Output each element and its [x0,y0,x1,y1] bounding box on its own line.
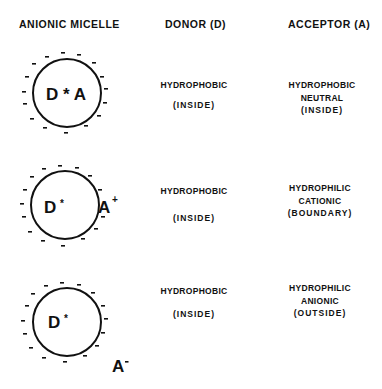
micelle-2: D * A + [20,165,118,247]
donor-property: HYDROPHOBIC [160,285,227,298]
row1-acceptor: HYDROPHOBIC NEUTRAL (INSIDE) [288,79,355,117]
donor-label: D [44,198,56,217]
acceptor-property: HYDROPHILIC [289,282,351,295]
row3-acceptor: HYDROPHILIC ANIONIC (OUTSIDE) [289,282,351,320]
donor-property: HYDROPHOBIC [160,185,227,198]
acceptor-label: A [112,357,124,376]
donor-location: (INSIDE) [160,99,227,112]
row3-donor: HYDROPHOBIC (INSIDE) [160,285,227,320]
excited-star: * [64,313,68,324]
acceptor-charge-type: ANIONIC [289,295,351,308]
acceptor-property: HYDROPHOBIC [288,79,355,92]
excited-star: * [60,198,64,209]
micelle-3: D * A [21,282,129,376]
donor-location: (INSIDE) [160,308,227,321]
donor-acceptor-pair-label: D * A [46,85,86,104]
acceptor-property: HYDROPHILIC [288,182,352,195]
row2-donor: HYDROPHOBIC (INSIDE) [160,185,227,224]
acceptor-charge-type: CATIONIC [288,195,352,208]
donor-property: HYDROPHOBIC [160,79,227,92]
donor-label: D [48,313,60,332]
row2-acceptor: HYDROPHILIC CATIONIC (BOUNDARY) [288,182,352,220]
acceptor-location: (INSIDE) [288,104,355,117]
micelle-circle [31,171,99,239]
micelle-1: D * A [22,52,108,134]
cation-charge: + [112,194,118,205]
acceptor-location: (OUTSIDE) [289,307,351,320]
donor-location: (INSIDE) [160,212,227,225]
acceptor-charge-type: NEUTRAL [288,92,355,105]
anion-charge [125,361,129,363]
acceptor-label: A [98,198,110,217]
acceptor-location: (BOUNDARY) [288,207,352,220]
row1-donor: HYDROPHOBIC (INSIDE) [160,79,227,111]
